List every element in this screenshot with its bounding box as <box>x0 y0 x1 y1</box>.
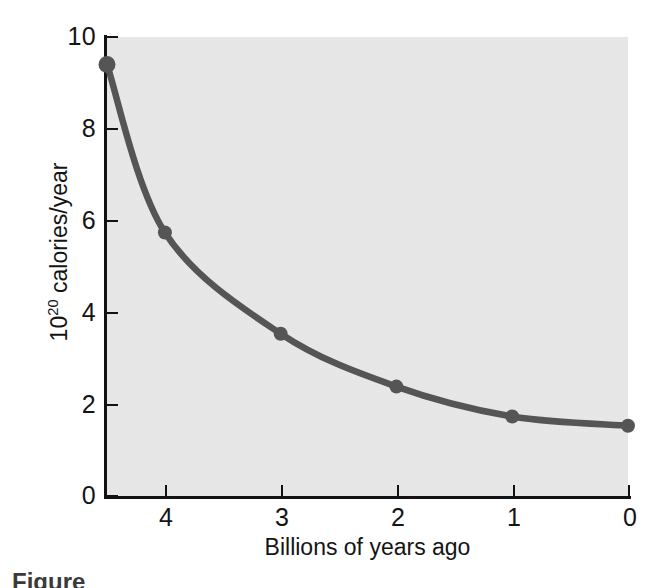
x-tick-label-0: 0 <box>610 503 650 531</box>
y-tick-10 <box>107 36 118 38</box>
y-tick-label-10-wrap: 10 <box>52 24 96 49</box>
x-tick-label-1: 1 <box>494 503 534 531</box>
y-axis-label-exponent: 20 <box>45 299 61 315</box>
x-tick-label-2: 2 <box>378 503 418 531</box>
figure-container: 10 8 6 4 2 0 4 3 2 1 0 Billions of years… <box>0 0 669 588</box>
y-axis-label: 1020 calories/year <box>44 87 74 417</box>
y-tick-label-0-wrap: 0 <box>52 483 96 508</box>
y-axis-label-base: 10 <box>46 316 72 342</box>
y-tick-label-10: 10 <box>60 24 96 49</box>
y-axis-label-rotated: 1020 calories/year <box>44 87 74 417</box>
x-tick-3 <box>281 485 283 496</box>
x-axis-label: Billions of years ago <box>107 534 628 561</box>
x-tick-label-3: 3 <box>262 503 302 531</box>
y-tick-2 <box>107 404 118 406</box>
y-axis-line <box>104 35 107 499</box>
y-tick-6 <box>107 220 118 222</box>
x-tick-2 <box>397 485 399 496</box>
x-tick-4 <box>165 485 167 496</box>
y-tick-8 <box>107 128 118 130</box>
x-tick-1 <box>513 485 515 496</box>
figure-caption-fragment: Figure <box>12 568 312 588</box>
plot-background-texture <box>107 37 628 497</box>
y-tick-label-0: 0 <box>60 483 96 508</box>
x-axis-line <box>104 496 631 499</box>
y-tick-0 <box>107 495 118 497</box>
plot-area <box>107 37 628 497</box>
y-tick-4 <box>107 312 118 314</box>
x-tick-label-4: 4 <box>146 503 186 531</box>
x-tick-0 <box>628 485 630 496</box>
y-axis-label-rest: calories/year <box>46 163 72 300</box>
